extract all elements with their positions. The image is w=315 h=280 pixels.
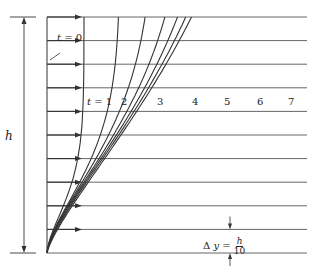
velocity-arrow-icon — [75, 203, 82, 208]
delta-y-fraction: h 10 — [234, 237, 245, 256]
pointer-line — [50, 53, 60, 60]
velocity-arrow-icon — [75, 227, 82, 232]
label-delta-y: Δ y = h 10 — [203, 237, 245, 256]
arrow-down-icon — [22, 246, 27, 253]
arrow-up-icon — [22, 17, 27, 24]
label-t0: t = 0 — [57, 33, 82, 43]
label-t5: 5 — [224, 97, 230, 107]
delta-y-lhs: Δ y = — [203, 240, 234, 251]
diagram-canvas — [0, 0, 315, 280]
label-t6: 6 — [257, 97, 263, 107]
diagram: t = 0 t = 1 2 3 4 5 6 7 h Δ y = h 10 — [0, 0, 315, 280]
velocity-arrow-icon — [75, 62, 82, 67]
label-t1: t = 1 — [87, 97, 112, 107]
label-t4: 4 — [192, 97, 198, 107]
velocity-arrow-icon — [75, 15, 82, 20]
label-t7: 7 — [288, 97, 294, 107]
label-height: h — [5, 130, 13, 142]
label-t2: 2 — [121, 97, 127, 107]
delta-y-denominator: 10 — [234, 247, 245, 256]
label-t3: 3 — [157, 97, 163, 107]
velocity-arrow-icon — [75, 85, 82, 90]
velocity-arrow-icon — [75, 109, 82, 114]
arrow-down-icon — [228, 223, 232, 229]
